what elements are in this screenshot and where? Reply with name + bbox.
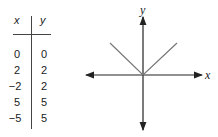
x-axis-label: x — [204, 68, 211, 82]
y-axis-label: y — [139, 3, 146, 17]
absolute-value-graph: x y — [0, 0, 218, 137]
